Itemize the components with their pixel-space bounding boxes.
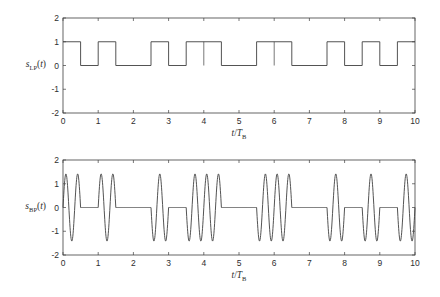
x-tick-label: 4 — [201, 258, 206, 268]
y-tick-label: 2 — [54, 155, 59, 165]
y-tick-label: -2 — [51, 108, 59, 118]
lowpass-xlabel: t/TB — [199, 128, 279, 140]
y-tick-label: 1 — [54, 37, 59, 47]
x-tick-label: 6 — [272, 258, 277, 268]
ylabel-close-paren: ) — [43, 201, 46, 211]
x-tick-label: 8 — [342, 258, 347, 268]
y-tick-label: 1 — [54, 179, 59, 189]
x-tick-label: 10 — [410, 116, 420, 126]
x-tick-label: 0 — [61, 258, 66, 268]
x-tick-label: 5 — [237, 258, 242, 268]
x-tick-label: 10 — [410, 258, 420, 268]
figure: 012345678910210-1-2 012345678910210-1-2 … — [0, 0, 440, 297]
y-tick-label: -1 — [51, 84, 59, 94]
x-tick-label: 3 — [166, 258, 171, 268]
x-tick-label: 1 — [96, 116, 101, 126]
bandpass-waveform — [63, 174, 415, 241]
y-tick-label: -1 — [51, 226, 59, 236]
x-tick-label: 7 — [307, 258, 312, 268]
y-tick-label: 0 — [54, 203, 59, 213]
y-tick-label: 2 — [54, 13, 59, 23]
ylabel-subscript: LP — [29, 64, 37, 71]
x-tick-label: 7 — [307, 116, 312, 126]
x-tick-label: 2 — [131, 258, 136, 268]
bandpass-plot: 012345678910210-1-2 — [23, 152, 423, 284]
bandpass-ylabel: sBP(t) — [12, 201, 46, 213]
x-tick-label: 9 — [377, 116, 382, 126]
ylabel-subscript: BP — [29, 206, 37, 213]
x-tick-label: 1 — [96, 258, 101, 268]
y-tick-label: 0 — [54, 61, 59, 71]
x-tick-label: 8 — [342, 116, 347, 126]
x-tick-label: 2 — [131, 116, 136, 126]
x-tick-label: 4 — [201, 116, 206, 126]
x-tick-label: 3 — [166, 116, 171, 126]
x-tick-label: 9 — [377, 258, 382, 268]
x-tick-label: 6 — [272, 116, 277, 126]
x-tick-label: 5 — [237, 116, 242, 126]
lowpass-waveform — [63, 42, 415, 66]
lowpass-ylabel: sLP(t) — [12, 59, 46, 71]
y-tick-label: -2 — [51, 250, 59, 260]
x-tick-label: 0 — [61, 116, 66, 126]
lowpass-plot: 012345678910210-1-2 — [23, 10, 423, 142]
xlabel-subscript: B — [242, 133, 246, 140]
xlabel-subscript: B — [242, 275, 246, 282]
bandpass-xlabel: t/TB — [199, 270, 279, 282]
ylabel-close-paren: ) — [43, 59, 46, 69]
